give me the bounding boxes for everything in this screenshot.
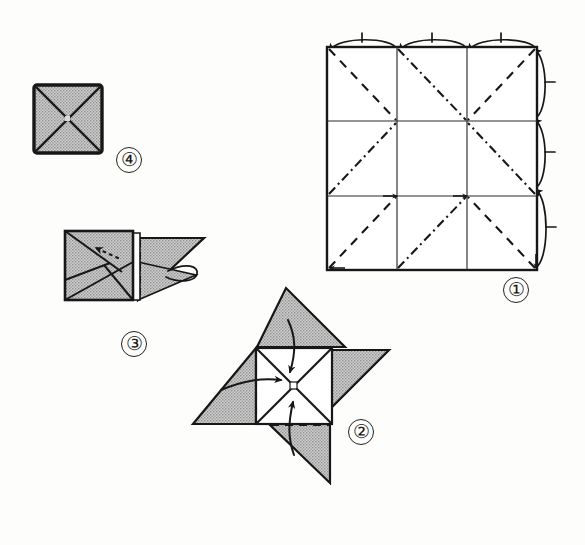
step-4-number-label: ④	[116, 147, 142, 173]
step-2-center-pivot	[290, 382, 297, 389]
step-1-number-label: ①	[503, 277, 529, 303]
step-3-square-face	[65, 231, 133, 300]
step-4-figure	[34, 85, 102, 153]
step-2-flap-right	[330, 350, 389, 409]
step-3-figure	[65, 231, 204, 300]
step-1-sheet-outline	[327, 47, 537, 270]
origami-diagram-canvas	[0, 0, 585, 545]
step-2-flap-top	[257, 288, 345, 347]
step-2-flap-bottom	[269, 424, 330, 483]
step-2-flap-left	[193, 348, 256, 424]
step-2-number-label: ②	[348, 419, 374, 445]
step-2-figure	[193, 288, 389, 483]
step-1-figure	[327, 33, 556, 270]
step-3-number-label: ③	[121, 331, 147, 357]
step-4-center-pivot	[65, 116, 70, 121]
